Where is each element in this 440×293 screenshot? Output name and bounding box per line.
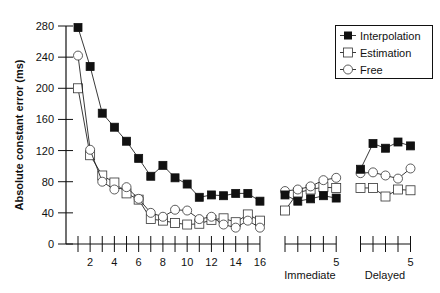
y-tick-label: 120 bbox=[36, 145, 54, 157]
open-circle-marker bbox=[74, 51, 83, 60]
open-circle-marker bbox=[158, 212, 167, 221]
y-tick-label: 200 bbox=[36, 82, 54, 94]
open-circle-marker bbox=[110, 185, 119, 194]
filled-square-marker bbox=[98, 109, 106, 117]
series-estimation bbox=[74, 84, 416, 229]
filled-square-marker bbox=[207, 191, 215, 199]
filled-square-marker bbox=[135, 154, 143, 162]
x-tick-label: 4 bbox=[111, 256, 117, 268]
y-tick-label: 280 bbox=[36, 20, 54, 32]
filled-square-marker bbox=[171, 174, 179, 182]
filled-square-marker bbox=[123, 137, 131, 145]
filled-square-marker bbox=[232, 189, 240, 197]
open-circle-marker bbox=[86, 145, 95, 154]
open-square-marker bbox=[369, 183, 378, 192]
open-square-marker bbox=[183, 220, 192, 229]
open-circle-marker bbox=[134, 194, 143, 203]
filled-square-marker bbox=[294, 197, 302, 205]
open-circle-marker bbox=[293, 185, 302, 194]
filled-square-marker bbox=[407, 142, 415, 150]
filled-square-marker bbox=[307, 195, 315, 203]
y-tick-label: 0 bbox=[48, 238, 54, 250]
x-tick-label: 10 bbox=[181, 256, 193, 268]
open-circle-marker bbox=[183, 206, 192, 215]
open-circle-marker bbox=[195, 215, 204, 224]
x-tick-label: 6 bbox=[136, 256, 142, 268]
y-tick-label: 80 bbox=[42, 176, 54, 188]
open-circle-marker bbox=[146, 208, 155, 217]
open-circle-marker bbox=[406, 164, 415, 173]
y-tick-label: 40 bbox=[42, 207, 54, 219]
filled-square-marker bbox=[332, 194, 340, 202]
legend-label: Estimation bbox=[360, 47, 411, 59]
filled-square-marker bbox=[147, 172, 155, 180]
open-square-marker bbox=[394, 185, 403, 194]
y-tick-label: 240 bbox=[36, 51, 54, 63]
series-line bbox=[78, 56, 260, 228]
series-line bbox=[78, 88, 260, 224]
x-tick-label: 14 bbox=[230, 256, 242, 268]
filled-square-marker bbox=[394, 138, 402, 146]
open-square-marker bbox=[74, 84, 83, 93]
open-circle-icon bbox=[344, 65, 353, 74]
open-circle-marker bbox=[231, 223, 240, 232]
y-axis: 04080120160200240280 bbox=[36, 20, 73, 250]
open-circle-marker bbox=[319, 176, 328, 185]
filled-square-marker bbox=[256, 197, 264, 205]
x-tick-label: 12 bbox=[205, 256, 217, 268]
filled-square-marker bbox=[86, 62, 94, 70]
legend-label: Interpolation bbox=[360, 30, 421, 42]
open-circle-marker bbox=[219, 220, 228, 229]
x-tick-label: 16 bbox=[254, 256, 266, 268]
filled-square-marker bbox=[369, 140, 377, 148]
filled-square-marker bbox=[220, 192, 228, 200]
open-circle-marker bbox=[394, 174, 403, 183]
open-circle-marker bbox=[122, 183, 131, 192]
legend-label: Free bbox=[360, 64, 383, 76]
line-chart: 04080120160200240280 Absolute constant e… bbox=[0, 0, 440, 293]
filled-square-marker bbox=[110, 123, 118, 131]
open-circle-marker bbox=[255, 223, 264, 232]
legend-item-free: Free bbox=[340, 64, 383, 76]
delayed-panel-label: Delayed bbox=[365, 269, 405, 281]
open-square-marker bbox=[332, 183, 341, 192]
filled-square-marker bbox=[183, 180, 191, 188]
open-circle-marker bbox=[98, 177, 107, 186]
open-square-marker bbox=[356, 183, 365, 192]
x-tick-label: 5 bbox=[333, 256, 339, 268]
open-square-marker bbox=[381, 192, 390, 201]
open-circle-marker bbox=[332, 173, 341, 182]
filled-square-marker bbox=[382, 144, 390, 152]
open-circle-marker bbox=[381, 171, 390, 180]
x-tick-label: 5 bbox=[407, 256, 413, 268]
open-circle-marker bbox=[369, 168, 378, 177]
filled-square-marker bbox=[159, 161, 167, 169]
open-square-marker bbox=[406, 186, 415, 195]
immediate-panel-label: Immediate bbox=[284, 269, 335, 281]
open-circle-marker bbox=[243, 216, 252, 225]
y-axis-title: Absolute constant error (ms) bbox=[13, 59, 25, 210]
open-square-marker bbox=[171, 218, 180, 227]
filled-square-marker bbox=[357, 165, 365, 173]
legend: InterpolationEstimationFree bbox=[336, 26, 433, 79]
filled-square-icon bbox=[344, 32, 352, 40]
x-tick-label: 2 bbox=[87, 256, 93, 268]
filled-square-marker bbox=[244, 189, 252, 197]
x-tick-label: 8 bbox=[160, 256, 166, 268]
filled-square-marker bbox=[195, 193, 203, 201]
open-circle-marker bbox=[207, 212, 216, 221]
legend-item-estimation: Estimation bbox=[340, 47, 411, 59]
filled-square-marker bbox=[74, 24, 82, 32]
filled-square-marker bbox=[319, 192, 327, 200]
open-circle-marker bbox=[171, 205, 180, 214]
filled-square-marker bbox=[281, 191, 289, 199]
x-axes: 24681012141655 bbox=[66, 236, 414, 268]
open-square-icon bbox=[344, 48, 353, 57]
open-square-marker bbox=[281, 206, 290, 215]
open-circle-marker bbox=[306, 182, 315, 191]
y-tick-label: 160 bbox=[36, 113, 54, 125]
